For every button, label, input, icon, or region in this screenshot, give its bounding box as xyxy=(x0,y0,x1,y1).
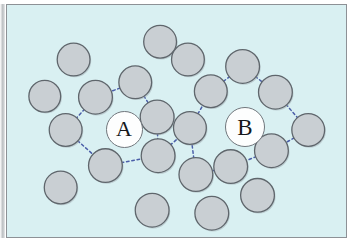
particle-disc xyxy=(172,43,205,76)
particle-disc xyxy=(214,150,248,184)
page-left-shadow xyxy=(0,4,5,238)
particle-layer xyxy=(7,5,346,237)
particle-disc xyxy=(29,80,61,112)
particle xyxy=(179,158,214,193)
particle-disc xyxy=(44,171,77,204)
figure-root: AB xyxy=(0,0,355,250)
particle-disc xyxy=(79,80,113,114)
site-label-a: A xyxy=(106,111,143,148)
particle xyxy=(29,80,62,113)
particle-disc xyxy=(195,196,229,230)
site-label-b: B xyxy=(225,107,265,147)
particle xyxy=(57,43,91,77)
particle-disc xyxy=(140,100,174,134)
site-label-text: B xyxy=(237,116,252,139)
particle-disc xyxy=(194,75,227,108)
particle-disc xyxy=(144,25,177,58)
particle-disc xyxy=(49,114,82,147)
particle xyxy=(119,66,153,100)
particle-disc xyxy=(241,179,275,213)
particle xyxy=(140,100,175,135)
site-label-text: A xyxy=(116,118,132,140)
particle xyxy=(226,50,261,85)
particle xyxy=(195,196,230,231)
particle-disc xyxy=(174,112,207,145)
particle-disc xyxy=(89,149,123,183)
particle xyxy=(44,171,78,205)
particle-disc xyxy=(292,114,325,147)
particle-disc xyxy=(179,158,213,192)
particle xyxy=(241,179,276,214)
particle xyxy=(194,75,228,109)
particle xyxy=(292,114,326,148)
particle xyxy=(214,150,249,185)
particle xyxy=(259,75,294,110)
particle xyxy=(172,43,206,77)
particle xyxy=(141,139,176,174)
particle xyxy=(174,112,208,146)
particle-disc xyxy=(226,50,260,84)
particle-disc xyxy=(135,193,169,227)
particle-disc xyxy=(259,75,293,109)
particle xyxy=(135,193,170,228)
particle-disc xyxy=(141,139,175,173)
particle xyxy=(49,114,83,148)
particle-disc xyxy=(57,43,90,76)
particle-disc xyxy=(119,66,152,99)
diagram-canvas: AB xyxy=(7,5,346,237)
particle xyxy=(89,149,124,184)
diagram-frame: AB xyxy=(6,4,347,238)
particle xyxy=(79,80,114,115)
